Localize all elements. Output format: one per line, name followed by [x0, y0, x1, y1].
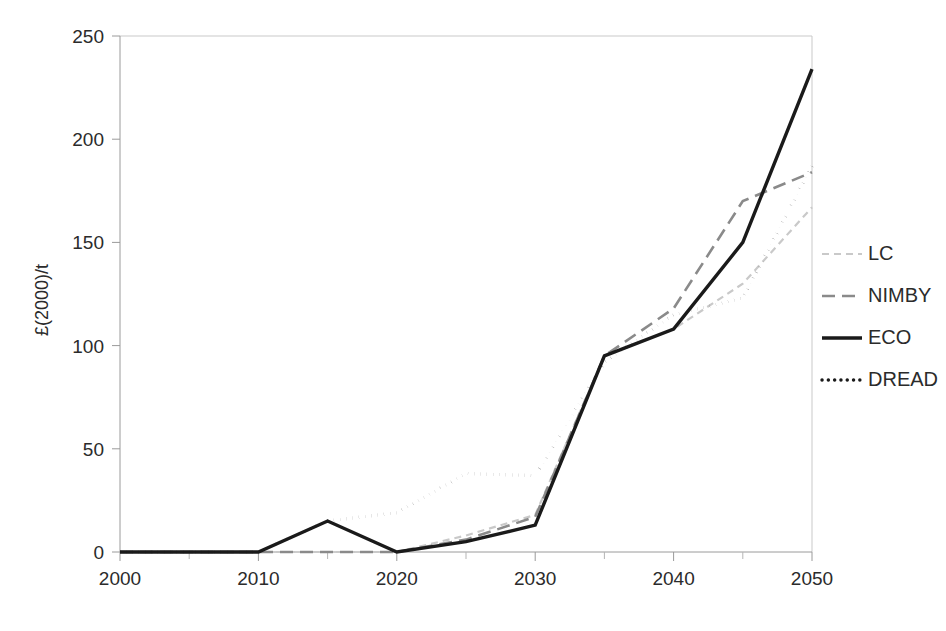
y-tick-label: 0	[93, 542, 104, 563]
legend-label-nimby: NIMBY	[868, 284, 931, 306]
x-tick-label: 2050	[791, 568, 833, 589]
legend-label-eco: ECO	[868, 326, 911, 348]
y-tick-label: 200	[72, 129, 104, 150]
y-tick-label: 250	[72, 26, 104, 47]
legend-label-dread: DREAD	[868, 368, 938, 390]
line-chart-figure: 050100150200250 £(2000)/t 20002010202020…	[0, 0, 946, 631]
y-tick-label: 150	[72, 232, 104, 253]
chart-canvas: 050100150200250 £(2000)/t 20002010202020…	[0, 0, 946, 631]
y-axis-title: £(2000)/t	[32, 264, 52, 336]
y-tick-label: 50	[83, 439, 104, 460]
chart-background	[0, 0, 946, 631]
legend-label-lc: LC	[868, 242, 894, 264]
x-tick-label: 2000	[99, 568, 141, 589]
x-tick-label: 2030	[514, 568, 556, 589]
y-tick-label: 100	[72, 336, 104, 357]
x-tick-label: 2020	[376, 568, 418, 589]
x-tick-label: 2010	[237, 568, 279, 589]
x-tick-label: 2040	[652, 568, 694, 589]
